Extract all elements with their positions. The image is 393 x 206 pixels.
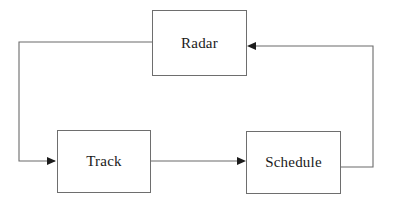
node-track-label: Track — [86, 154, 121, 169]
node-radar[interactable]: Radar — [152, 10, 247, 76]
node-schedule-label: Schedule — [265, 155, 322, 170]
node-track[interactable]: Track — [57, 130, 151, 193]
node-schedule[interactable]: Schedule — [246, 131, 341, 194]
edge-schedule-to-radar-arrowhead — [247, 42, 256, 50]
edge-track-to-schedule — [151, 157, 246, 165]
edge-radar-to-track-arrowhead — [47, 157, 56, 165]
node-radar-label: Radar — [181, 36, 218, 51]
block-diagram-canvas: Radar Track Schedule — [0, 0, 393, 206]
edge-track-to-schedule-arrowhead — [237, 157, 246, 165]
